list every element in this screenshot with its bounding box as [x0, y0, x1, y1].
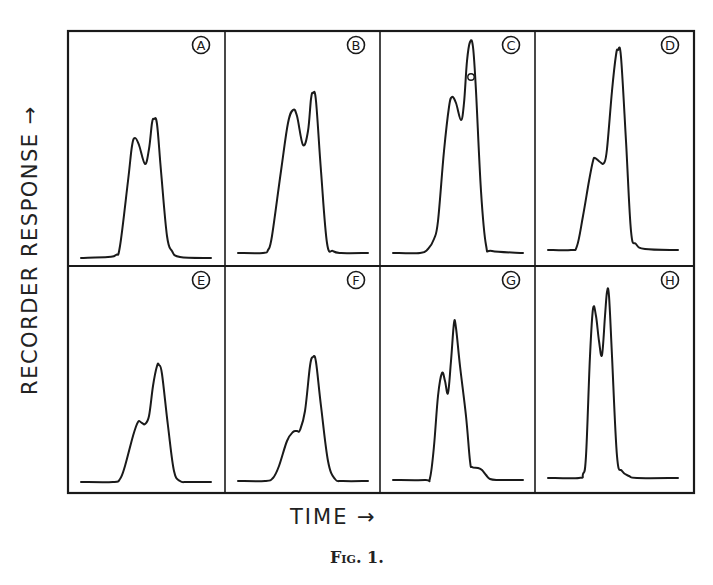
panel-g: G: [393, 272, 523, 482]
response-curve: [548, 288, 678, 478]
y-axis-label: RECORDER RESPONSE →: [10, 80, 50, 420]
svg-text:D: D: [665, 38, 675, 53]
response-curve: [81, 364, 211, 483]
panel-label-f: F: [348, 272, 365, 289]
panel-grid: ABCDEFGH: [0, 0, 713, 585]
svg-text:H: H: [665, 273, 675, 288]
response-curve: [548, 47, 678, 250]
panel-c: C: [393, 37, 523, 254]
panel-label-a: A: [193, 37, 210, 54]
panel-e: E: [81, 272, 211, 483]
y-axis-label-text: RECORDER RESPONSE →: [18, 105, 42, 395]
panel-b: B: [238, 37, 368, 254]
response-curve: [393, 320, 523, 481]
panel-label-h: H: [662, 272, 679, 289]
panel-label-c: C: [503, 37, 520, 54]
annotation-mark: [468, 74, 474, 80]
figure-caption: Fig. 1.: [330, 548, 450, 567]
panel-label-e: E: [193, 272, 210, 289]
response-curve: [238, 92, 368, 253]
response-curve: [238, 356, 368, 481]
figure: ABCDEFGH RECORDER RESPONSE → TIME → Fig.…: [0, 0, 713, 585]
svg-text:F: F: [352, 273, 359, 288]
response-curve: [81, 118, 211, 258]
outer-border: [68, 31, 694, 493]
panel-f: F: [238, 272, 368, 482]
svg-text:C: C: [506, 38, 515, 53]
panel-d: D: [548, 37, 679, 251]
panel-label-d: D: [662, 37, 679, 54]
panel-a: A: [81, 37, 211, 259]
panel-frame: [68, 31, 694, 493]
panel-label-b: B: [348, 37, 365, 54]
svg-text:A: A: [197, 38, 206, 53]
panel-label-g: G: [503, 272, 520, 289]
svg-text:B: B: [352, 38, 361, 53]
svg-text:E: E: [197, 273, 205, 288]
response-curve: [393, 40, 523, 253]
svg-text:G: G: [506, 273, 516, 288]
panel-h: H: [548, 272, 679, 479]
x-axis-label: TIME →: [290, 505, 490, 529]
